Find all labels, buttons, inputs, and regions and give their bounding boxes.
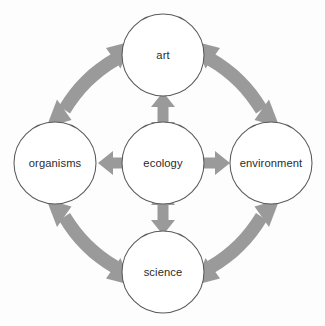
- curved-connector-environment-science: [195, 200, 280, 286]
- node-art[interactable]: art: [122, 14, 204, 96]
- curved-connector-organisms-science: [47, 200, 132, 286]
- node-science[interactable]: science: [122, 231, 204, 313]
- curved-connector-art-environment: [195, 42, 280, 128]
- node-organisms[interactable]: organisms: [14, 122, 96, 204]
- arc-body-art-environment: [208, 54, 268, 114]
- node-ecology[interactable]: ecology: [122, 122, 204, 204]
- relationship-diagram: art organisms ecology environment scienc…: [0, 0, 325, 326]
- node-label-organisms: organisms: [29, 157, 82, 169]
- node-label-science: science: [144, 266, 183, 278]
- node-environment[interactable]: environment: [230, 122, 312, 204]
- node-label-ecology: ecology: [143, 157, 183, 169]
- node-label-art: art: [156, 49, 170, 61]
- diagram-canvas: art organisms ecology environment scienc…: [0, 0, 325, 326]
- curved-connector-art-organisms: [47, 42, 132, 128]
- arc-body-organisms-science: [59, 213, 119, 273]
- arc-body-environment-science: [208, 213, 268, 273]
- arc-body-art-organisms: [59, 54, 119, 114]
- node-label-environment: environment: [240, 157, 303, 169]
